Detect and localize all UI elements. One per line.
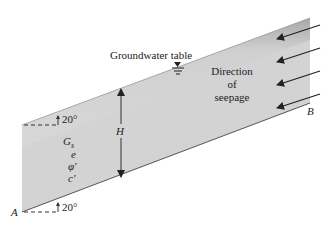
seepage-label-line1: Direction (211, 65, 253, 77)
top-angle-label: 20° (62, 113, 77, 125)
point-b-label: B (307, 105, 314, 117)
bottom-angle-label: 20° (62, 201, 77, 213)
seepage-label-line2: of (227, 78, 237, 90)
cohesion-label: c′ (68, 172, 76, 184)
groundwater-table-label: Groundwater table (110, 49, 192, 61)
bottom-angle-arrow-icon (56, 202, 60, 206)
height-label: H (115, 125, 125, 137)
seepage-label-line3: seepage (215, 91, 250, 103)
void-ratio-label: e (71, 148, 76, 160)
slope-diagram: 20° 20° A B H Gs e φ′ c′ Groundwater tab… (0, 0, 331, 229)
point-a-label: A (10, 206, 18, 218)
friction-angle-label: φ′ (68, 160, 77, 172)
